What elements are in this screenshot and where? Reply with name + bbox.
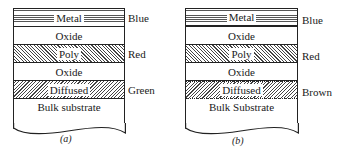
bulk-substrate-layer: Bulk substrate <box>14 99 124 129</box>
layer-label: Poly <box>229 48 253 60</box>
layer-stack-b: Metal Oxide Poly Oxide Diffused Bulk Sub… <box>185 8 298 129</box>
layer-label: Bulk Substrate <box>207 101 276 113</box>
layer-label: Oxide <box>226 30 257 42</box>
layer-label: Diffused <box>48 84 90 96</box>
panel-a: Metal Oxide Poly Oxide Diffused Bulk sub… <box>0 0 170 152</box>
color-label-poly: Red <box>302 50 320 62</box>
oxide-layer: Oxide <box>14 27 124 45</box>
layer-label: Metal <box>227 11 257 23</box>
layer-label: Oxide <box>226 66 257 78</box>
panel-b: Metal Oxide Poly Oxide Diffused Bulk Sub… <box>170 0 340 152</box>
panel-caption: (b) <box>232 135 244 146</box>
oxide-layer: Oxide <box>14 63 124 81</box>
oxide-layer: Oxide <box>186 63 297 81</box>
color-label-metal: Blue <box>128 12 149 24</box>
diffused-layer: Diffused <box>14 81 124 99</box>
layer-label: Poly <box>57 48 81 60</box>
layer-label: Oxide <box>54 30 85 42</box>
diffused-layer: Diffused <box>186 81 297 99</box>
color-label-poly: Red <box>128 48 146 60</box>
layer-label: Diffused <box>220 84 262 96</box>
poly-layer: Poly <box>186 45 297 63</box>
layer-label: Bulk substrate <box>35 101 102 113</box>
oxide-layer: Oxide <box>186 27 297 45</box>
layer-label: Metal <box>54 12 84 24</box>
layer-label: Oxide <box>54 66 85 78</box>
metal-layer: Metal <box>14 9 124 27</box>
color-label-diffused: Brown <box>302 86 332 98</box>
color-label-metal: Blue <box>302 14 323 26</box>
color-label-diffused: Green <box>128 84 155 96</box>
bulk-substrate-layer: Bulk Substrate <box>186 99 297 129</box>
layer-stack-a: Metal Oxide Poly Oxide Diffused Bulk sub… <box>13 8 125 129</box>
metal-layer: Metal <box>186 9 297 27</box>
poly-layer: Poly <box>14 45 124 63</box>
panel-caption: (a) <box>60 133 72 144</box>
